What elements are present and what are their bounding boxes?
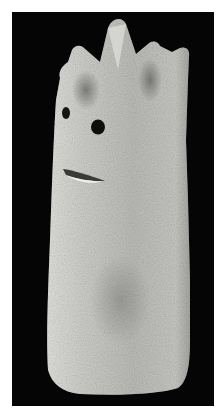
- sculpture-figure: [12, 12, 214, 406]
- photograph: [12, 12, 214, 406]
- left-eye-hole: [62, 107, 70, 119]
- right-eye-hole: [91, 120, 105, 135]
